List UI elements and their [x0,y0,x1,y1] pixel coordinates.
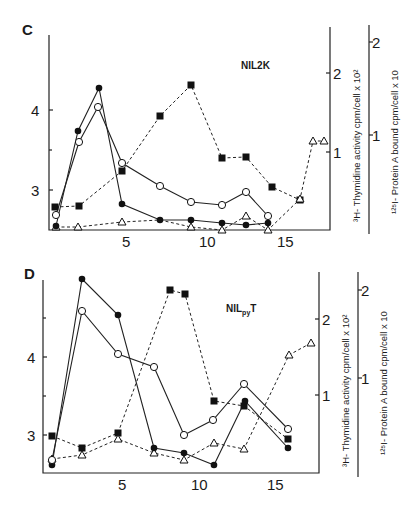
x-tick-label: 10 [199,233,216,250]
right-tick-label: 2 [322,311,330,328]
plot-frame-d [43,272,319,473]
right-tick-label: 2 [361,282,369,299]
y-tick-label: 4 [27,349,35,366]
panel-d: D NILpyT 4 3 5 10 15 2 1 2 1 ³H- Thymidi… [24,265,389,493]
right-tick-label: 1 [372,127,380,144]
series-filled-circles-c [56,88,268,226]
panel-title-c: NIL2K [241,60,271,71]
right-axis-2-label-c: ¹²⁵I- Protein A bound cpm/cell x 10 [389,70,400,214]
panel-label-c: C [22,21,33,38]
x-tick-label: 15 [267,476,284,493]
right-tick-label: 1 [333,144,341,161]
markers-c [52,82,329,234]
right-tick-label: 2 [372,34,380,51]
x-tick-label: 15 [277,233,294,250]
x-tick-label: 5 [122,233,130,250]
series-triangles-c [56,141,324,230]
figure-canvas: C NIL2K 4 3 5 10 15 2 1 2 1 ³H- Thymidin… [0,0,417,512]
series-open-circles-d [52,311,288,460]
panel-c: C NIL2K 4 3 5 10 15 2 1 2 1 ³H- Thymidin… [22,21,400,250]
series-open-circles-c [56,107,268,216]
panel-title-d: NILpyT [226,303,256,317]
y-tick-label: 3 [31,182,39,199]
y-tick-label: 4 [31,102,39,119]
panel-label-d: D [24,265,35,282]
right-axis-1-label-d: ³H- Thymidine activity cpm/cell x 10² [340,315,351,467]
right-axis-2-label-d: ¹²⁵I- Protein A bound cpm/cell x 10 [378,311,389,455]
right-tick-label: 2 [333,65,341,82]
x-tick-label: 5 [118,476,126,493]
right-tick-label: 1 [361,370,369,387]
markers-d [48,276,315,469]
x-tick-label: 10 [191,476,208,493]
y-tick-label: 3 [27,427,35,444]
right-axis-1-label-c: ³H- Thymidine activity cpm/cell x 10² [351,70,362,222]
series-triangles-d [52,343,311,460]
right-tick-label: 1 [322,387,330,404]
